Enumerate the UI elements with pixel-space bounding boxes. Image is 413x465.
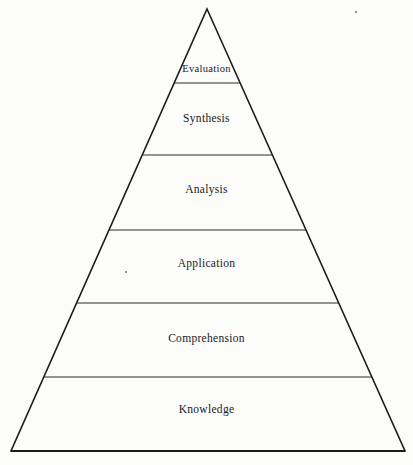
pyramid-level-application: Application <box>0 256 413 272</box>
pyramid-level-synthesis: Synthesis <box>0 111 413 127</box>
scan-speck-upper-right <box>355 11 357 13</box>
pyramid-level-comprehension: Comprehension <box>0 331 413 347</box>
pyramid-level-analysis: Analysis <box>0 182 413 198</box>
scan-speck-application <box>125 271 127 273</box>
pyramid-level-evaluation: Evaluation <box>0 62 413 76</box>
pyramid-figure: EvaluationSynthesisAnalysisApplicationCo… <box>0 0 413 465</box>
pyramid-level-knowledge: Knowledge <box>0 402 413 418</box>
